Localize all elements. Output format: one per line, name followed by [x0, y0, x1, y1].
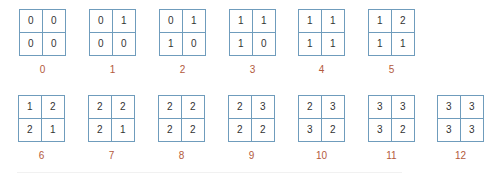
- grid-cell: 0: [43, 10, 66, 33]
- grid-cell: 2: [89, 119, 112, 142]
- grid-cell: 2: [182, 96, 205, 119]
- two-by-two-grid: 1 2 1 1: [368, 9, 415, 56]
- grid-label: 2: [159, 64, 206, 75]
- grid-label: 4: [298, 64, 345, 75]
- two-by-two-grid: 3 3 3 2: [368, 95, 415, 142]
- grid-label: 5: [368, 64, 415, 75]
- grid-item-10: 2 3 3 2 10: [298, 95, 346, 142]
- grid-cell: 1: [112, 119, 135, 142]
- grid-cell: 2: [229, 96, 252, 119]
- grid-label: 1: [89, 64, 136, 75]
- grid-label: 10: [298, 150, 345, 161]
- grid-label: 12: [437, 150, 484, 161]
- grid-item-2: 0 1 1 0 2: [159, 9, 207, 56]
- grid-cell: 0: [183, 33, 206, 56]
- two-by-two-grid: 2 2 2 2: [158, 95, 205, 142]
- grid-cell: 1: [113, 10, 136, 33]
- two-by-two-grid: 0 1 1 0: [159, 9, 206, 56]
- grid-item-12: 3 3 3 3 12: [437, 95, 485, 142]
- two-by-two-grid: 0 1 0 0: [89, 9, 136, 56]
- grid-cell: 2: [112, 96, 135, 119]
- two-by-two-grid: 1 1 1 0: [229, 9, 276, 56]
- grid-cell: 3: [438, 119, 461, 142]
- grid-label: 11: [368, 150, 415, 161]
- grid-cell: 1: [392, 33, 415, 56]
- two-by-two-grid: 2 3 3 2: [298, 95, 345, 142]
- grid-cell: 2: [19, 119, 42, 142]
- grid-cell: 1: [42, 119, 65, 142]
- grid-cell: 3: [322, 96, 345, 119]
- grid-cell: 3: [299, 119, 322, 142]
- grid-cell: 1: [299, 10, 322, 33]
- grid-cell: 2: [42, 96, 65, 119]
- grid-item-4: 1 1 1 1 4: [298, 9, 346, 56]
- grid-label: 9: [228, 150, 275, 161]
- grid-cell: 1: [253, 10, 276, 33]
- grid-label: 7: [88, 150, 135, 161]
- grid-item-11: 3 3 3 2 11: [368, 95, 416, 142]
- grid-label: 0: [19, 64, 66, 75]
- grid-cell: 3: [392, 96, 415, 119]
- grid-cell: 2: [252, 119, 275, 142]
- grid-cell: 1: [230, 33, 253, 56]
- two-by-two-grid: 1 2 2 1: [18, 95, 65, 142]
- two-by-two-grid: 2 2 2 1: [88, 95, 135, 142]
- grid-cell: 2: [392, 10, 415, 33]
- grid-cell: 1: [19, 96, 42, 119]
- grid-item-8: 2 2 2 2 8: [158, 95, 206, 142]
- grid-label: 6: [18, 150, 65, 161]
- grid-label: 8: [158, 150, 205, 161]
- grid-cell: 0: [160, 10, 183, 33]
- two-by-two-grid: 2 3 2 2: [228, 95, 275, 142]
- two-by-two-grid: 0 0 0 0: [19, 9, 66, 56]
- grid-cell: 1: [369, 33, 392, 56]
- grid-cell: 0: [90, 10, 113, 33]
- grid-cell: 0: [20, 33, 43, 56]
- grid-cell: 2: [299, 96, 322, 119]
- grid-item-6: 1 2 2 1 6: [18, 95, 66, 142]
- grid-label: 3: [229, 64, 276, 75]
- grid-cell: 2: [159, 119, 182, 142]
- grid-cell: 1: [230, 10, 253, 33]
- grid-cell: 0: [20, 10, 43, 33]
- grid-item-1: 0 1 0 0 1: [89, 9, 137, 56]
- grid-cell: 2: [392, 119, 415, 142]
- grid-item-5: 1 2 1 1 5: [368, 9, 416, 56]
- grid-cell: 1: [369, 10, 392, 33]
- grid-cell: 2: [229, 119, 252, 142]
- grid-item-9: 2 3 2 2 9: [228, 95, 276, 142]
- grid-cell: 1: [183, 10, 206, 33]
- grid-cell: 2: [182, 119, 205, 142]
- grid-item-7: 2 2 2 1 7: [88, 95, 136, 142]
- two-by-two-grid: 1 1 1 1: [298, 9, 345, 56]
- divider: [17, 172, 402, 173]
- grid-cell: 0: [90, 33, 113, 56]
- grid-cell: 0: [43, 33, 66, 56]
- grid-cell: 3: [438, 96, 461, 119]
- grid-cell: 3: [369, 96, 392, 119]
- grid-cell: 1: [299, 33, 322, 56]
- grid-cell: 2: [159, 96, 182, 119]
- grid-item-3: 1 1 1 0 3: [229, 9, 277, 56]
- grid-cell: 0: [253, 33, 276, 56]
- grid-cell: 1: [160, 33, 183, 56]
- grid-cell: 2: [89, 96, 112, 119]
- grid-item-0: 0 0 0 0 0: [19, 9, 67, 56]
- two-by-two-grid: 3 3 3 3: [437, 95, 484, 142]
- grid-cell: 3: [461, 96, 484, 119]
- grid-cell: 0: [113, 33, 136, 56]
- grid-cell: 1: [322, 33, 345, 56]
- grid-cell: 2: [322, 119, 345, 142]
- grid-cell: 1: [322, 10, 345, 33]
- grid-cell: 3: [252, 96, 275, 119]
- grid-cell: 3: [461, 119, 484, 142]
- grid-cell: 3: [369, 119, 392, 142]
